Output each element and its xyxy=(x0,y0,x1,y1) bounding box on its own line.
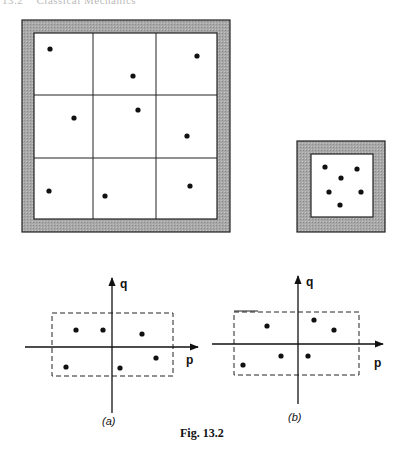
phase-point xyxy=(73,327,78,332)
phase-point xyxy=(278,353,283,358)
phase-point xyxy=(326,189,331,194)
phase-point xyxy=(337,202,342,207)
phase-point xyxy=(358,189,363,194)
panel-a-label: (a) xyxy=(102,415,115,427)
phase-point xyxy=(354,166,359,171)
phase-point xyxy=(117,365,122,370)
q-axis-label-a: q xyxy=(120,277,127,291)
phase-point xyxy=(311,317,316,322)
phase-point xyxy=(264,323,269,328)
phase-point xyxy=(46,188,51,193)
large-phase-box xyxy=(22,20,230,232)
panel-b-points xyxy=(240,317,336,367)
figure-caption: Fig. 13.2 xyxy=(180,426,224,441)
phase-point xyxy=(139,331,144,336)
phase-point xyxy=(305,353,310,358)
phase-point xyxy=(63,364,68,369)
phase-point xyxy=(194,53,199,58)
panel-a-diagram xyxy=(25,278,198,413)
phase-point xyxy=(135,107,140,112)
phase-point xyxy=(331,327,336,332)
phase-point xyxy=(187,183,192,188)
panel-b-diagram xyxy=(212,276,383,404)
phase-point xyxy=(47,46,52,51)
small-phase-box xyxy=(297,141,385,232)
phase-point xyxy=(322,164,327,169)
phase-point xyxy=(100,327,105,332)
phase-point xyxy=(153,355,158,360)
figure-canvas xyxy=(0,0,405,450)
panel-b-label: (b) xyxy=(288,411,301,423)
panel-a-points xyxy=(63,327,158,370)
phase-point xyxy=(240,362,245,367)
p-axis-label-a: p xyxy=(186,353,193,367)
phase-point xyxy=(184,133,189,138)
q-axis-label-b: q xyxy=(306,275,313,289)
phase-point xyxy=(338,175,343,180)
phase-point xyxy=(130,73,135,78)
phase-point xyxy=(102,193,107,198)
phase-point xyxy=(71,115,76,120)
p-axis-label-b: p xyxy=(374,356,381,370)
